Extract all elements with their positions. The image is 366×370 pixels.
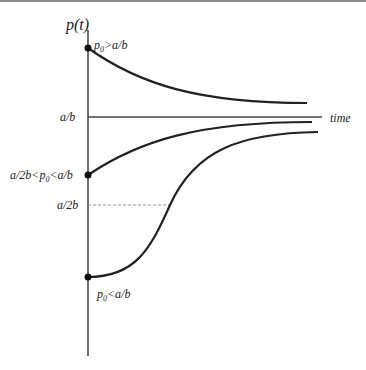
initial-point-middle	[85, 172, 92, 179]
label-bottom-initial: p0<a/b	[96, 287, 130, 303]
curve-above-equilibrium	[88, 48, 307, 103]
curve-below-half	[88, 132, 318, 277]
logistic-diagram: p(t) p0>a/b a/b time a/2b<p0<a/b a/2b p0…	[0, 0, 366, 370]
initial-point-top	[85, 45, 92, 52]
y-axis-label: p(t)	[65, 16, 89, 34]
half-level-label: a/2b	[57, 198, 78, 212]
equilibrium-label: a/b	[60, 110, 75, 124]
label-middle-initial: a/2b<p0<a/b	[10, 168, 73, 184]
initial-point-bottom	[85, 274, 92, 281]
label-top-initial: p0>a/b	[93, 38, 127, 54]
x-axis-label: time	[330, 111, 351, 125]
curve-between	[88, 122, 312, 175]
